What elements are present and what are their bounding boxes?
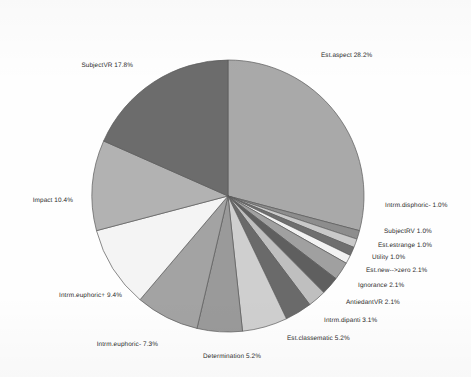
pie-slice-label: Est.new-->zero 2.1% xyxy=(366,267,427,275)
pie-slice-label: Est.classematic 5.2% xyxy=(287,335,350,343)
pie-slice-label: Intrm.dipanti 3.1% xyxy=(324,317,377,325)
pie-slice-label: SubjectVR 17.8% xyxy=(81,62,133,70)
pie-slice-label: SubjectRV 1.0% xyxy=(384,228,432,236)
pie-slice-label: Utility 1.0% xyxy=(372,254,405,262)
pie-slice-label: Est.estrange 1.0% xyxy=(378,242,432,250)
pie-slice-label: Intrm.euphoric+ 9.4% xyxy=(59,292,122,300)
pie-chart-canvas xyxy=(0,0,471,377)
pie-slice-label: Intrm.euphoric- 7.3% xyxy=(97,341,158,349)
pie-slice-label: Intrm.disphoric- 1.0% xyxy=(385,202,447,210)
pie-slice-label: Determination 5.2% xyxy=(203,353,261,361)
pie-slice-group xyxy=(92,60,364,332)
pie-slice-label: Impact 10.4% xyxy=(33,197,73,205)
pie-slice-label: Est.aspect 28.2% xyxy=(321,52,372,60)
pie-chart-figure: Est.aspect 28.2%Intrm.disphoric- 1.0%Sub… xyxy=(0,0,471,377)
pie-slice-label: Ignorance 2.1% xyxy=(358,282,404,290)
pie-slice-label: AntiedantVR 2.1% xyxy=(346,299,400,307)
